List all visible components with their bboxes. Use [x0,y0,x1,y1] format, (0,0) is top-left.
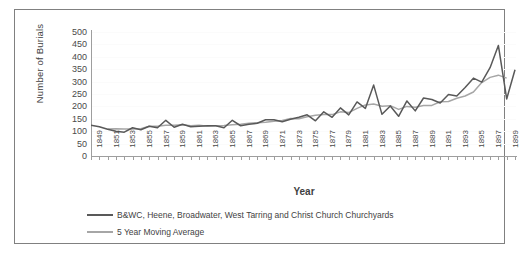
series-line-1 [91,45,515,132]
x-tick-label: 1855 [145,130,154,160]
series-lines [91,32,517,158]
x-tick-label: 1895 [477,130,486,160]
x-tick-label: 1877 [328,130,337,160]
x-axis-title: Year [91,186,517,197]
x-tick-label: 1851 [112,130,121,160]
x-tick-label: 1863 [211,130,220,160]
x-tick-label: 1889 [428,130,437,160]
legend-label-series2: 5 Year Moving Average [117,227,204,237]
y-tick-label: 500 [53,28,87,36]
x-tick-label: 1867 [245,130,254,160]
y-tick-label: 50 [53,140,87,148]
x-tick-label: 1887 [411,130,420,160]
y-tick-label: 300 [53,78,87,86]
y-tick-label: 250 [53,90,87,98]
x-tick-label: 1893 [461,130,470,160]
chart-legend: B&WC, Heene, Broadwater, West Tarring an… [87,206,507,240]
legend-item-series2: 5 Year Moving Average [87,223,507,240]
y-tick-label: 200 [53,102,87,110]
legend-swatch-series1 [87,214,113,216]
x-tick-label: 1899 [511,130,520,160]
y-tick-label: 350 [53,65,87,73]
legend-label-series1: B&WC, Heene, Broadwater, West Tarring an… [117,210,394,220]
legend-item-series1: B&WC, Heene, Broadwater, West Tarring an… [87,206,507,223]
x-tick-label: 1865 [228,130,237,160]
y-tick-label: 400 [53,53,87,61]
x-tick-label: 1881 [361,130,370,160]
x-tick-label: 1871 [278,130,287,160]
y-tick-label: 450 [53,40,87,48]
legend-swatch-series2 [87,231,113,233]
x-tick-label: 1897 [494,130,503,160]
x-tick-label: 1853 [128,130,137,160]
x-tick-label: 1885 [394,130,403,160]
x-tick-label: 1869 [261,130,270,160]
chart-plot-area: Number of Burials 5004504003503002502001… [15,10,520,258]
y-tick-label: 150 [53,115,87,123]
x-tick-label: 1875 [311,130,320,160]
chart-frame: Number of Burials 5004504003503002502001… [14,9,505,244]
x-tick-label: 1849 [95,130,104,160]
x-tick-label: 1879 [344,130,353,160]
x-tick-label: 1883 [378,130,387,160]
y-tick-label: 100 [53,127,87,135]
x-tick-label: 1873 [295,130,304,160]
y-tick-label: 0 [53,152,87,160]
x-tick-label: 1891 [444,130,453,160]
x-tick-label: 1859 [178,130,187,160]
y-axis-ticks: 500450400350300250200150100500 [43,10,87,170]
x-tick-label: 1861 [195,130,204,160]
x-tick-label: 1857 [162,130,171,160]
